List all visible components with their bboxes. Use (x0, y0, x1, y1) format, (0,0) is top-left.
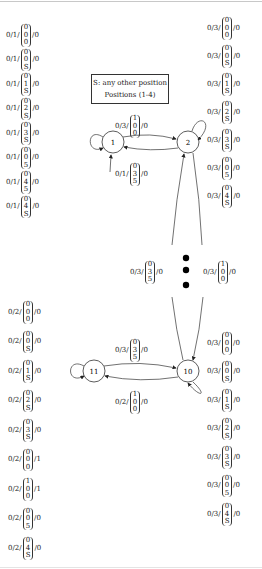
label-vector: 00S (21, 49, 32, 72)
right-bottom-label: 0/3/000/0 (207, 332, 240, 355)
vector-entry: S (225, 376, 230, 384)
state-10[interactable]: 10 (177, 360, 199, 382)
vector-entry: S (26, 434, 31, 442)
label-suffix: /0 (32, 179, 39, 186)
label-suffix: /0 (34, 545, 41, 552)
label-prefix: 0/3/ (207, 340, 221, 347)
label-suffix: /0 (34, 397, 41, 404)
vector-entry: 5 (26, 523, 30, 531)
label-suffix: /0 (233, 137, 240, 144)
vector-entry: 0 (26, 316, 30, 324)
label-vector: 01S (222, 389, 233, 412)
label-vector: 035 (130, 339, 140, 362)
edge-11-to-10 (104, 363, 176, 368)
label-prefix: 0/3/ (207, 425, 221, 432)
label-vector: 03S (23, 419, 34, 442)
label-prefix: 0/1/ (6, 179, 20, 186)
vector-entry: 5 (225, 172, 229, 180)
label-suffix: /0 (233, 340, 240, 347)
edge-label-10-to-11: 0/2/100/0 (115, 391, 148, 414)
vector-entry: S (225, 144, 230, 152)
edge-label-mid-right: 0/3/100/0 (203, 261, 236, 284)
label-vector: 035 (130, 163, 140, 186)
label-suffix: /0 (141, 171, 148, 178)
label-prefix: 0/2/ (8, 338, 22, 345)
label-suffix: /0 (233, 511, 240, 518)
edge-ellipsis-into-10 (193, 297, 203, 360)
vector-entry: 5 (133, 178, 137, 186)
state-11[interactable]: 11 (83, 360, 105, 382)
label-vector: 02S (222, 101, 233, 124)
label-vector: 04S (23, 537, 34, 560)
label-suffix: /0 (32, 130, 39, 137)
left-top-label: 0/1/01S/0 (6, 73, 39, 96)
label-suffix: /0 (141, 347, 148, 354)
left-top-label: 0/1/02S/0 (6, 98, 39, 121)
left-bottom-label: 0/2/000/1 (8, 449, 41, 472)
right-bottom-label: 0/3/03S/0 (207, 446, 240, 469)
label-vector: 02S (23, 390, 34, 413)
left-bottom-label: 0/2/00S/0 (8, 331, 41, 354)
left-bottom-label: 0/2/03S/0 (8, 419, 41, 442)
left-top-label: 0/1/00S/0 (6, 49, 39, 72)
vector-entry: 0 (133, 406, 137, 414)
label-suffix: /0 (34, 515, 41, 522)
label-prefix: 0/3/ (115, 347, 129, 354)
label-suffix: /0 (34, 368, 41, 375)
initial-arrow (110, 155, 111, 172)
vector-entry: 0 (26, 493, 30, 501)
label-vector: 005 (222, 157, 232, 180)
label-suffix: /0 (141, 399, 148, 406)
left-top-label: 0/1/005/0 (6, 147, 39, 170)
vector-entry: 0 (133, 130, 137, 138)
label-suffix: /0 (34, 309, 41, 316)
label-suffix: /0 (32, 154, 39, 161)
label-prefix: 0/3/ (207, 397, 221, 404)
label-prefix: 0/1/ (6, 32, 20, 39)
self-loop-10 (188, 382, 201, 393)
vector-entry: 5 (133, 354, 137, 362)
state-10-label: 10 (184, 368, 193, 376)
label-prefix: 0/1/ (6, 56, 20, 63)
vector-entry: 0 (24, 39, 28, 47)
state-2[interactable]: 2 (177, 131, 199, 153)
state-11-label: 11 (90, 368, 99, 376)
label-vector: 00S (222, 45, 233, 68)
left-top-label: 0/1/03S/0 (6, 122, 39, 145)
ellipsis-dot (183, 282, 189, 288)
right-top-label: 0/3/04S/0 (207, 185, 240, 208)
label-prefix: 0/1/ (6, 105, 20, 112)
label-suffix: /0 (34, 338, 41, 345)
label-suffix: /0 (233, 53, 240, 60)
vector-entry: S (26, 375, 31, 383)
vector-entry: S (225, 88, 230, 96)
edge-label-1-to-2: 0/3/100/0 (115, 115, 148, 138)
label-prefix: 0/3/ (207, 482, 221, 489)
label-vector: 100 (23, 478, 33, 501)
vector-entry: 5 (225, 490, 229, 498)
label-vector: 005 (222, 475, 232, 498)
vector-entry: S (24, 64, 29, 72)
label-suffix: /0 (233, 397, 240, 404)
state-1-label: 1 (111, 139, 115, 147)
label-prefix: 0/1/ (115, 171, 129, 178)
label-prefix: 0/3/ (207, 511, 221, 518)
label-vector: 04S (21, 196, 32, 219)
label-prefix: 0/1/ (6, 203, 20, 210)
left-top-label: 0/1/045/0 (6, 171, 39, 194)
edge-2-to-1 (124, 147, 178, 150)
right-top-label: 0/3/000/0 (207, 17, 240, 40)
label-prefix: 0/2/ (8, 427, 22, 434)
left-bottom-label: 0/2/02S/0 (8, 390, 41, 413)
label-suffix: /0 (141, 123, 148, 130)
label-vector: 00S (222, 361, 233, 384)
ellipsis-dot (183, 267, 189, 273)
label-prefix: 0/3/ (130, 269, 144, 276)
label-prefix: 0/3/ (207, 53, 221, 60)
vector-entry: S (26, 346, 31, 354)
label-prefix: 0/3/ (203, 269, 217, 276)
left-bottom-label: 0/2/005/0 (8, 508, 41, 531)
vector-entry: 0 (225, 32, 229, 40)
left-top-label: 0/1/000/0 (6, 24, 39, 47)
right-bottom-label: 0/3/005/0 (207, 475, 240, 498)
